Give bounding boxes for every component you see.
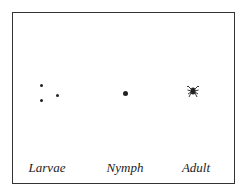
stage-label-larvae: Larvae: [29, 160, 66, 176]
larva-dot-icon: [40, 99, 43, 102]
adult-tick-icon: [186, 84, 200, 98]
diagram-frame: [12, 12, 235, 184]
stage-label-adult: Adult: [182, 160, 210, 176]
nymph-dot-icon: [123, 91, 128, 96]
stage-label-nymph: Nymph: [107, 160, 144, 176]
larva-dot-icon: [40, 84, 43, 87]
larva-dot-icon: [56, 94, 59, 97]
